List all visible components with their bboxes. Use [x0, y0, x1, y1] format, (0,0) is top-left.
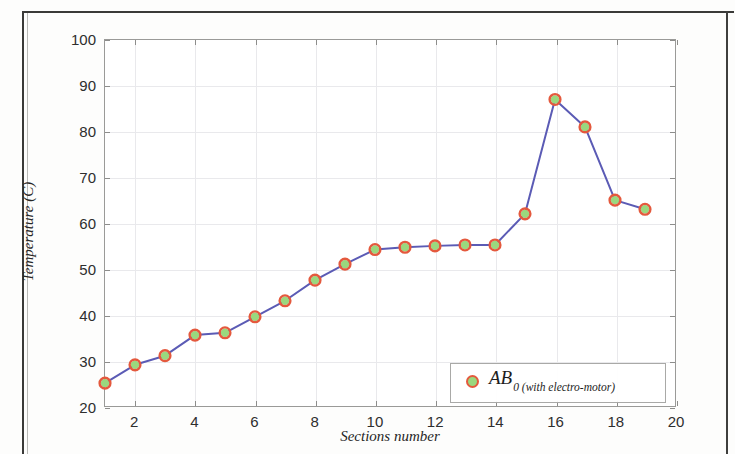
x-tick-label: 4: [190, 413, 198, 430]
data-point-fill: [641, 205, 649, 213]
series-layer: [105, 40, 675, 406]
data-point-fill: [461, 241, 469, 249]
data-point-fill: [371, 245, 379, 253]
legend-label-main: AB: [489, 367, 512, 388]
chart-figure: Temperature (C) Sections number AB0 (wit…: [0, 0, 735, 454]
y-axis-title: Temperature (C): [20, 142, 37, 322]
legend-label: AB0 (with electro-motor): [489, 367, 614, 389]
data-point-fill: [311, 276, 319, 284]
x-tick-mark-top: [677, 40, 678, 45]
x-tick-label: 12: [427, 413, 444, 430]
data-point-fill: [251, 313, 259, 321]
y-tick-label: 100: [58, 31, 96, 48]
legend-box: AB0 (with electro-motor): [450, 363, 666, 403]
y-tick-mark: [105, 408, 110, 409]
x-tick-label: 10: [367, 413, 384, 430]
y-tick-label: 50: [58, 261, 96, 278]
x-tick-label: 16: [547, 413, 564, 430]
y-tick-label: 90: [58, 77, 96, 94]
y-tick-label: 20: [58, 399, 96, 416]
x-tick-mark: [677, 401, 678, 406]
legend-marker-icon: [466, 375, 479, 388]
data-point-fill: [281, 297, 289, 305]
y-tick-label: 70: [58, 169, 96, 186]
x-tick-label: 18: [607, 413, 624, 430]
legend-label-sub: 0 (with electro-motor): [513, 381, 615, 393]
data-point-fill: [491, 241, 499, 249]
data-point-fill: [101, 379, 109, 387]
data-point-fill: [611, 196, 619, 204]
y-tick-mark-right: [670, 408, 675, 409]
series-line: [105, 99, 645, 383]
data-point-fill: [191, 331, 199, 339]
x-tick-label: 20: [668, 413, 685, 430]
x-tick-label: 6: [250, 413, 258, 430]
data-point-fill: [551, 95, 559, 103]
data-point-fill: [581, 123, 589, 131]
y-tick-label: 60: [58, 215, 96, 232]
y-tick-label: 30: [58, 353, 96, 370]
x-tick-label: 14: [487, 413, 504, 430]
x-axis-title: Sections number: [104, 428, 676, 445]
data-point-fill: [431, 242, 439, 250]
x-tick-label: 2: [130, 413, 138, 430]
data-point-fill: [161, 351, 169, 359]
plot-area: AB0 (with electro-motor): [104, 39, 676, 407]
y-tick-label: 40: [58, 307, 96, 324]
data-point-fill: [221, 329, 229, 337]
data-point-fill: [131, 361, 139, 369]
data-point-fill: [341, 260, 349, 268]
data-point-fill: [401, 243, 409, 251]
x-tick-label: 8: [311, 413, 319, 430]
y-tick-label: 80: [58, 123, 96, 140]
data-point-fill: [521, 210, 529, 218]
